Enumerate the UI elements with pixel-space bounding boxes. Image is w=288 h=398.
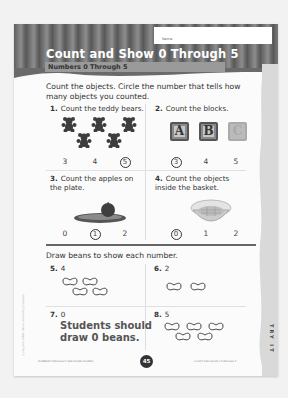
bean-icon [197,332,213,341]
copyright-text: © Houghton Mifflin Harcourt Publishing C… [22,294,25,356]
page-subtitle: Numbers 0 Through 5 [48,63,127,71]
bean-icon [72,287,88,296]
choice-5[interactable]: 5 [221,156,251,168]
choice-0[interactable]: 0 [50,228,80,240]
page-title: Count and Show 0 Through 5 [46,47,239,61]
page-number-badge: 45 [140,355,153,368]
teddy-bear-icon [91,116,107,132]
bean-icon [186,322,202,331]
side-wave-decoration [258,64,264,376]
choice-5-circled[interactable]: 5 [110,156,140,168]
choice-2[interactable]: 2 [221,228,251,240]
bean-icon [62,277,78,286]
empty-basket-icon [189,198,233,224]
choice-3-circled[interactable]: 3 [161,156,191,168]
column-divider [145,104,146,240]
instructions-part1: Count the objects. Circle the number tha… [46,82,256,102]
question-7: 7.0 [50,310,65,319]
bean-icon [208,322,224,331]
question-1: 1.Count the teddy bears. [50,104,144,113]
choice-3[interactable]: 3 [50,156,80,168]
bean-icon [190,282,206,291]
section-divider [46,244,256,246]
teddy-bear-icon [121,116,137,132]
bean-icon [82,277,98,286]
teddy-bear-icon [61,116,77,132]
bean-icon [175,332,191,341]
row-divider [46,170,246,171]
apple-on-plate-icon [74,202,130,224]
block-a-icon: A [170,122,189,141]
name-field[interactable]: Name [154,27,272,44]
try-it-tab: TRY IT [269,324,275,354]
choice-2[interactable]: 2 [110,228,140,240]
answer-choices-q2: 3 4 5 [161,156,251,168]
choice-4[interactable]: 4 [191,156,221,168]
question-5: 5.4 [50,264,65,273]
question-3: 3.Count the apples on the plate. [50,174,140,192]
block-c-faded-icon: C [228,122,247,141]
footer-right-text: COUNT AND SHOW 0 THROUGH 5 [194,360,236,363]
answer-choices-q1: 3 4 5 [50,156,140,168]
choice-1[interactable]: 1 [191,228,221,240]
teddy-bear-icon [106,132,122,148]
answer-note: Students should draw 0 beans. [60,320,152,344]
bean-icon [92,287,108,296]
teddy-bear-icon [76,132,92,148]
instructions-part2: Draw beans to show each number. [46,251,256,261]
worksheet-page: Name Count and Show 0 Through 5 Numbers … [14,24,278,376]
choice-0-circled[interactable]: 0 [161,228,191,240]
block-b-icon: B [199,122,218,141]
answer-choices-q4: 0 1 2 [161,228,251,240]
question-2: 2.Count the blocks. [155,104,229,113]
choice-1-circled[interactable]: 1 [80,228,110,240]
row-divider [46,306,246,307]
name-label: Name [162,37,172,41]
bean-icon [166,282,182,291]
question-8: 8.5 [154,310,169,319]
choice-4[interactable]: 4 [80,156,110,168]
question-6: 6.2 [154,264,169,273]
subtitle-bar: Numbers 0 Through 5 [45,62,225,72]
answer-choices-q3: 0 1 2 [50,228,140,240]
footer-left-text: NUMBERS THROUGH 5 AND PLANE FIGURES [38,360,93,363]
bean-icon [164,322,180,331]
question-4: 4.Count the objects inside the basket. [155,174,245,192]
